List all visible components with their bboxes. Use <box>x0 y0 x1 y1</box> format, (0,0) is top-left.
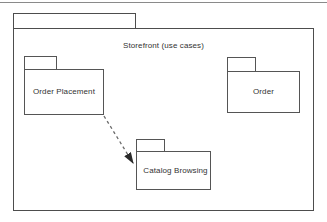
order-placement-tab <box>25 57 57 70</box>
outer-package-title: Storefront (use cases) <box>0 41 327 51</box>
order-tab <box>228 58 256 72</box>
catalog-browsing-tab <box>137 140 165 152</box>
uml-package-diagram: Storefront (use cases) Order Placement O… <box>0 0 327 222</box>
package-label-order-placement: Order Placement <box>24 87 104 97</box>
diagram-canvas <box>0 0 327 222</box>
package-label-catalog-browsing: Catalog Browsing <box>138 166 213 176</box>
outer-package-tab <box>14 14 136 29</box>
package-label-order: Order <box>227 87 300 97</box>
